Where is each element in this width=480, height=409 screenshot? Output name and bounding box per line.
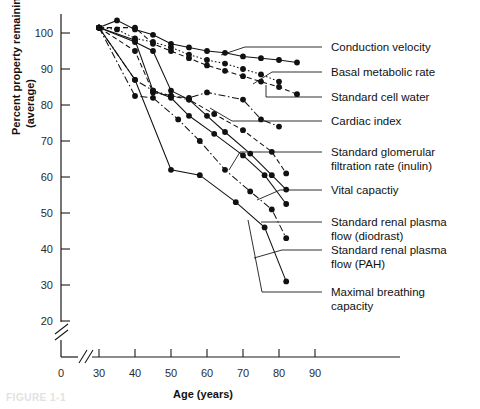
data-point — [240, 127, 246, 133]
data-point — [262, 172, 268, 178]
y-tick-label-60: 60 — [41, 171, 53, 183]
leader-cardiac-index — [210, 108, 322, 121]
y-tick-label-80: 80 — [41, 99, 53, 111]
series-label-srpf-pah-line1[interactable]: Standard renal plasma — [331, 244, 447, 256]
data-point — [186, 45, 192, 51]
x-tick-label-60: 60 — [201, 367, 213, 379]
y-tick-label-50: 50 — [41, 207, 53, 219]
figure-container: 100 90 80 70 60 50 40 30 20 0 30 40 50 6… — [0, 0, 480, 409]
x-tick-label-70: 70 — [237, 367, 249, 379]
data-point — [276, 84, 282, 90]
y-axis-title-line2: (average) — [24, 79, 36, 128]
data-point — [283, 171, 289, 177]
data-point — [276, 57, 282, 63]
series-label-standard-gfr-line2[interactable]: filtration rate (inulin) — [331, 160, 432, 172]
data-point — [186, 97, 192, 103]
series-label-standard-gfr-line1[interactable]: Standard glomerular — [331, 146, 435, 158]
data-point — [96, 25, 102, 31]
data-point — [240, 73, 246, 79]
y-axis-break-icon — [55, 324, 68, 340]
data-point — [240, 153, 246, 159]
series-label-basal-metabolic-rate[interactable]: Basal metabolic rate — [331, 66, 435, 78]
data-point — [204, 90, 210, 96]
data-point — [283, 279, 289, 285]
series-line-standard-glomerular-filtration-rate-inulin — [99, 28, 286, 174]
data-point — [222, 68, 228, 74]
series-line-maximal-breathing-capacity — [99, 28, 286, 282]
data-point — [283, 235, 289, 241]
data-point — [150, 32, 156, 38]
x-axis-title: Age (years) — [173, 388, 233, 400]
series-label-maximal-breathing-line1[interactable]: Maximal breathing — [331, 286, 425, 298]
series-standard-renal-plasma-flow-diodrast — [96, 25, 289, 207]
series-label-vital-capacity[interactable]: Vital capactiy — [331, 184, 399, 196]
data-point — [186, 55, 192, 61]
leader-vital-capacity — [257, 190, 322, 200]
series-labels-group: Conduction velocity Basal metabolic rate… — [331, 41, 447, 312]
data-point — [114, 18, 120, 24]
data-point — [240, 97, 246, 103]
x-axis-break-icon — [79, 350, 93, 363]
data-point — [240, 66, 246, 72]
data-point — [168, 167, 174, 173]
data-point — [233, 199, 239, 205]
data-point — [204, 63, 210, 69]
data-point — [132, 77, 138, 83]
data-series-layer — [96, 18, 300, 285]
data-point — [294, 91, 300, 97]
series-label-cardiac-index[interactable]: Cardiac index — [331, 115, 402, 127]
data-point — [132, 48, 138, 54]
figure-caption: FIGURE 1-1 — [6, 392, 66, 403]
series-label-srpf-diodrast-line1[interactable]: Standard renal plasma — [331, 216, 447, 228]
series-label-standard-cell-water[interactable]: Standard cell water — [331, 91, 430, 103]
data-point — [294, 60, 300, 66]
data-point — [168, 48, 174, 54]
data-point — [222, 129, 228, 135]
data-point — [204, 113, 210, 119]
y-tick-label-70: 70 — [41, 135, 53, 147]
series-vital-capactiy — [96, 25, 289, 193]
y-tick-label-30: 30 — [41, 279, 53, 291]
series-maximal-breathing-capacity — [96, 25, 289, 285]
data-point — [197, 138, 203, 144]
x-tick-label-0: 0 — [58, 367, 64, 379]
data-point — [276, 124, 282, 130]
data-point — [262, 225, 268, 231]
data-point — [168, 88, 174, 94]
series-line-conduction-velocity — [99, 20, 297, 62]
data-point — [132, 25, 138, 31]
data-point — [204, 48, 210, 54]
leader-srpf-pah — [254, 250, 322, 258]
x-tick-label-80: 80 — [273, 367, 285, 379]
data-point — [150, 48, 156, 54]
series-standard-cell-water — [96, 25, 300, 97]
x-tick-label-40: 40 — [129, 367, 141, 379]
series-basal-metabolic-rate — [96, 25, 282, 85]
data-point — [276, 79, 282, 85]
series-conduction-velocity — [96, 18, 300, 66]
data-point — [175, 117, 181, 123]
data-point — [247, 189, 253, 195]
data-point — [240, 54, 246, 60]
series-label-conduction-velocity[interactable]: Conduction velocity — [331, 41, 431, 53]
series-label-maximal-breathing-line2[interactable]: capacity — [331, 300, 373, 312]
data-point — [150, 41, 156, 47]
series-label-srpf-pah-line2[interactable]: flow (PAH) — [331, 258, 385, 270]
data-point — [132, 37, 138, 43]
x-tick-label-30: 30 — [93, 367, 105, 379]
data-point — [211, 131, 217, 137]
data-point — [222, 61, 228, 67]
leader-conduction-velocity — [221, 47, 322, 55]
y-tick-label-90: 90 — [41, 63, 53, 75]
chart-canvas: 100 90 80 70 60 50 40 30 20 0 30 40 50 6… — [0, 0, 480, 409]
data-point — [150, 95, 156, 101]
data-point — [197, 172, 203, 178]
data-point — [168, 95, 174, 101]
leader-standard-cell-water — [266, 85, 322, 97]
y-tick-label-40: 40 — [41, 243, 53, 255]
x-ticks-group: 0 30 40 50 60 70 80 90 — [58, 349, 321, 379]
series-label-srpf-diodrast-line2[interactable]: flow (diodrast) — [331, 230, 403, 242]
series-line-vital-capactiy — [99, 28, 286, 190]
y-tick-label-20: 20 — [41, 315, 53, 327]
series-line-cardiac-index — [99, 28, 279, 127]
